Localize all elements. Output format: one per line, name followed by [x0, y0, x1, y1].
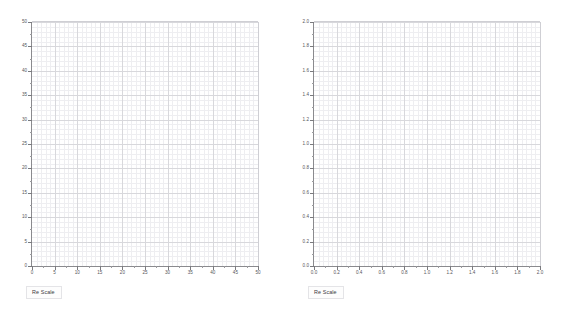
gridline-minor-horizontal — [314, 246, 540, 247]
y-axis-tick — [28, 266, 32, 267]
axis-spine-top — [32, 21, 258, 22]
y-axis-tick — [28, 144, 32, 145]
gridline-minor-horizontal — [314, 129, 540, 130]
gridline-minor-horizontal — [314, 81, 540, 82]
gridline-minor-horizontal — [314, 183, 540, 184]
plot-area-right[interactable]: 0.00.20.40.60.81.01.21.41.61.82.00.00.20… — [314, 22, 540, 266]
y-axis-tick-label: 0.0 — [303, 264, 309, 269]
gridline-minor-vertical — [477, 22, 478, 266]
plot-area-left[interactable]: 0510152025303540455005101520253035404550 — [32, 22, 258, 266]
gridline-minor-horizontal — [314, 90, 540, 91]
gridline-minor-horizontal — [32, 149, 258, 150]
gridline-minor-vertical — [208, 22, 209, 266]
x-axis-tick-label: 30 — [165, 271, 170, 276]
rescale-button[interactable]: Re Scale — [26, 286, 62, 299]
gridline-major-horizontal — [314, 22, 540, 23]
gridline-minor-vertical — [377, 22, 378, 266]
gridline-minor-horizontal — [314, 212, 540, 213]
y-axis-tick-label: 1.0 — [303, 142, 309, 147]
gridline-major-vertical — [472, 22, 473, 266]
rescale-button[interactable]: Re Scale — [308, 286, 344, 299]
y-axis-tick-label: 20 — [22, 166, 27, 171]
gridline-major-vertical — [404, 22, 405, 266]
gridline-minor-horizontal — [32, 261, 258, 262]
gridline-minor-horizontal — [314, 256, 540, 257]
y-axis-tick-label: 0.2 — [303, 239, 309, 244]
y-axis-tick — [310, 144, 314, 145]
gridline-minor-vertical — [328, 22, 329, 266]
gridline-major-vertical — [359, 22, 360, 266]
y-axis-tick-label: 0.8 — [303, 166, 309, 171]
gridline-minor-vertical — [244, 22, 245, 266]
y-axis-minor-tick — [30, 83, 32, 84]
gridline-major-horizontal — [32, 193, 258, 194]
x-axis-tick-label: 45 — [233, 271, 238, 276]
gridline-minor-horizontal — [32, 188, 258, 189]
gridline-minor-vertical — [240, 22, 241, 266]
gridline-minor-horizontal — [32, 251, 258, 252]
gridline-minor-horizontal — [32, 164, 258, 165]
x-axis-tick-label: 0.8 — [401, 271, 407, 276]
x-axis-tick-label: 15 — [97, 271, 102, 276]
gridline-major-vertical — [213, 22, 214, 266]
gridline-minor-vertical — [95, 22, 96, 266]
gridline-minor-horizontal — [314, 105, 540, 106]
gridline-major-vertical — [190, 22, 191, 266]
y-axis-tick-label: 30 — [22, 117, 27, 122]
gridline-minor-horizontal — [32, 237, 258, 238]
gridline-minor-horizontal — [32, 129, 258, 130]
gridline-minor-vertical — [86, 22, 87, 266]
gridline-minor-vertical — [140, 22, 141, 266]
x-axis-tick-label: 50 — [255, 271, 260, 276]
gridline-minor-vertical — [159, 22, 160, 266]
gridline-minor-horizontal — [32, 32, 258, 33]
gridline-minor-horizontal — [314, 42, 540, 43]
gridline-minor-horizontal — [314, 66, 540, 67]
gridline-minor-vertical — [154, 22, 155, 266]
gridline-minor-horizontal — [314, 139, 540, 140]
gridline-minor-vertical — [68, 22, 69, 266]
gridline-minor-horizontal — [314, 237, 540, 238]
gridline-minor-horizontal — [314, 110, 540, 111]
grid-left — [32, 22, 258, 266]
gridline-major-vertical — [235, 22, 236, 266]
gridline-minor-horizontal — [32, 183, 258, 184]
x-axis-minor-tick — [484, 266, 485, 268]
y-axis-minor-tick — [312, 254, 314, 255]
gridline-minor-horizontal — [32, 66, 258, 67]
gridline-minor-horizontal — [32, 246, 258, 247]
y-axis-minor-tick — [312, 181, 314, 182]
x-axis-minor-tick — [43, 266, 44, 268]
gridline-minor-horizontal — [314, 207, 540, 208]
gridline-minor-horizontal — [314, 27, 540, 28]
x-axis-tick-label: 5 — [53, 271, 56, 276]
y-axis-tick-label: 1.6 — [303, 69, 309, 74]
x-axis-minor-tick — [66, 266, 67, 268]
y-axis-tick — [310, 120, 314, 121]
y-axis-minor-tick — [30, 205, 32, 206]
x-axis-tick-label: 1.4 — [469, 271, 475, 276]
x-axis-tick-label: 25 — [142, 271, 147, 276]
gridline-major-vertical — [337, 22, 338, 266]
gridline-minor-horizontal — [314, 261, 540, 262]
gridline-minor-horizontal — [314, 37, 540, 38]
gridline-minor-vertical — [490, 22, 491, 266]
gridline-minor-vertical — [418, 22, 419, 266]
gridline-minor-vertical — [323, 22, 324, 266]
gridline-minor-horizontal — [314, 251, 540, 252]
gridline-minor-vertical — [136, 22, 137, 266]
gridline-minor-vertical — [522, 22, 523, 266]
gridline-major-vertical — [55, 22, 56, 266]
y-axis-tick-label: 15 — [22, 191, 27, 196]
gridline-minor-vertical — [454, 22, 455, 266]
x-axis-tick-label: 0.4 — [356, 271, 362, 276]
y-axis-tick-label: 25 — [22, 142, 27, 147]
gridline-minor-vertical — [350, 22, 351, 266]
y-axis-minor-tick — [312, 205, 314, 206]
gridline-minor-horizontal — [314, 51, 540, 52]
gridline-minor-horizontal — [314, 115, 540, 116]
gridline-major-horizontal — [32, 95, 258, 96]
x-axis-tick-label: 0.6 — [379, 271, 385, 276]
gridline-minor-horizontal — [32, 178, 258, 179]
gridline-minor-vertical — [346, 22, 347, 266]
